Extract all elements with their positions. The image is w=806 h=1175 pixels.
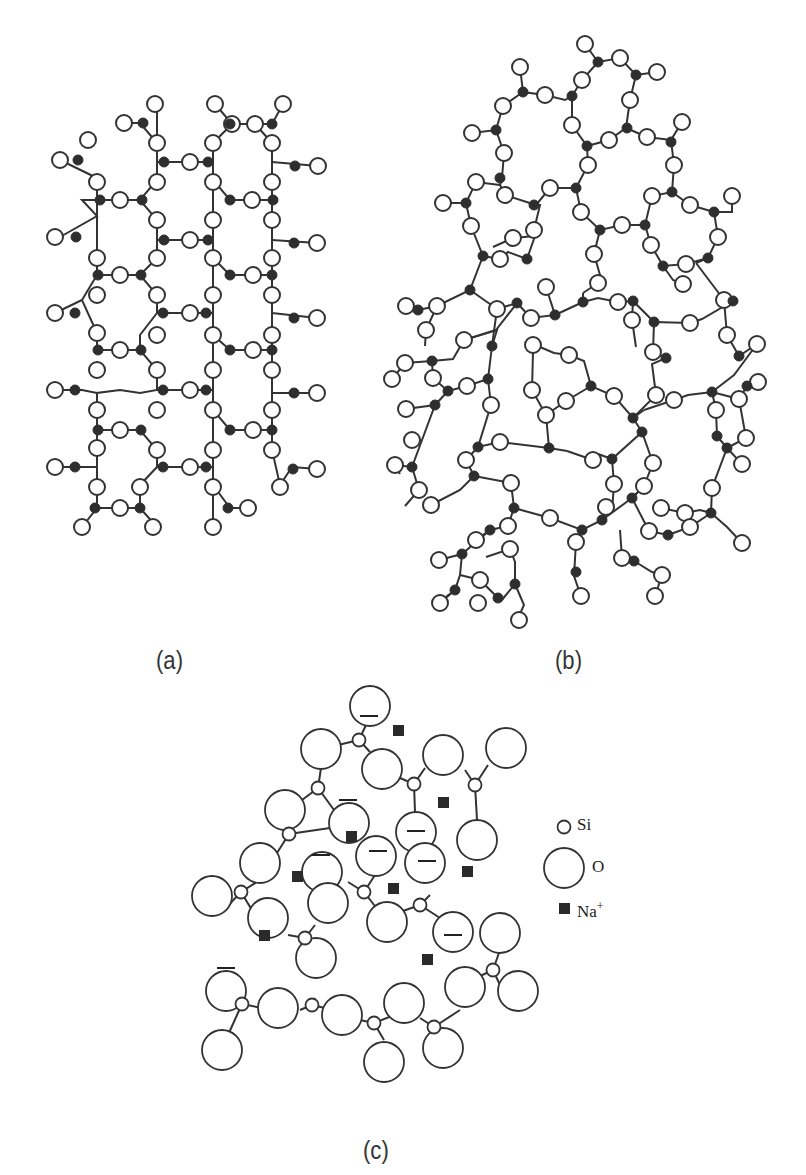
oxygen-atom <box>682 197 698 213</box>
silicon-atom <box>235 886 248 899</box>
oxygen-atom <box>682 315 698 331</box>
silicon-atom <box>95 195 105 205</box>
oxygen-atom <box>245 422 261 438</box>
sodium-ion <box>346 831 357 842</box>
silicon-atom <box>427 356 437 366</box>
silicon-atom <box>722 443 732 453</box>
oxygen-atom <box>666 392 682 408</box>
oxygen-atom <box>500 518 516 534</box>
oxygen-atom <box>423 497 439 513</box>
oxygen-atom <box>309 310 325 326</box>
oxygen-atom <box>606 388 622 404</box>
silicon-atom <box>622 123 632 133</box>
oxygen-atom <box>205 442 221 458</box>
oxygen-atom <box>265 790 305 830</box>
oxygen-atom <box>47 305 63 321</box>
silicon-atom <box>201 308 211 318</box>
oxygen-atom <box>423 1028 463 1068</box>
oxygen-atom <box>496 145 512 161</box>
oxygen-atom <box>112 342 128 358</box>
oxygen-atom <box>89 362 105 378</box>
oxygen-atom <box>47 229 63 245</box>
legend-si-label: Si <box>577 815 591 835</box>
oxygen-atom <box>435 195 451 211</box>
silicon-atom <box>487 964 500 977</box>
oxygen-atom <box>240 500 256 516</box>
oxygen-atom <box>47 459 63 475</box>
silicon-atom <box>267 270 277 280</box>
oxygen-atom <box>149 287 165 303</box>
oxygen-atom <box>470 595 486 611</box>
oxygen-atom <box>205 287 221 303</box>
oxygen-atom <box>480 913 520 953</box>
silicon-atom <box>658 261 668 271</box>
silicon-atom <box>529 200 539 210</box>
silicon-atom <box>465 285 475 295</box>
oxygen-atom <box>512 59 528 75</box>
silicon-atom <box>491 125 501 135</box>
oxygen-atom <box>182 382 198 398</box>
silicon-atom <box>414 899 427 912</box>
oxygen-atom <box>431 552 447 568</box>
silicon-atom <box>289 388 299 398</box>
legend-na-element: Na <box>577 902 597 921</box>
oxygen-atom <box>145 519 161 535</box>
legend-na-charge: + <box>597 899 604 913</box>
silicon-atom <box>478 251 488 261</box>
silicon-atom <box>93 425 103 435</box>
silicon-atom <box>368 1017 381 1030</box>
silicon-atom <box>407 462 417 472</box>
sodium-ion <box>388 883 399 894</box>
silicon-atom <box>201 462 211 472</box>
oxygen-atom <box>682 519 698 535</box>
oxygen-atom <box>387 457 403 473</box>
silicon-atom <box>267 119 277 129</box>
oxygen-atom <box>132 479 148 495</box>
oxygen-atom <box>362 749 402 789</box>
silicon-atom <box>90 503 100 513</box>
panel-c-label: (c) <box>363 1135 389 1166</box>
oxygen-atom <box>489 301 505 317</box>
silicon-atom <box>628 413 638 423</box>
oxygen-atom <box>205 479 221 495</box>
silicon-atom <box>138 118 148 128</box>
silicon-atom <box>522 254 532 264</box>
oxygen-atom <box>542 510 558 526</box>
oxygen-atom <box>405 843 445 883</box>
oxygen-atom <box>486 728 526 768</box>
oxygen-atom <box>649 64 665 80</box>
panel-b-amorphous-network <box>384 36 766 628</box>
silicon-atom <box>582 141 592 151</box>
oxygen-atom <box>275 96 291 112</box>
silicon-atom <box>443 386 453 396</box>
silicon-atom <box>487 341 497 351</box>
silicon-atom <box>550 310 560 320</box>
oxygen-atom <box>537 87 553 103</box>
oxygen-atom <box>459 378 475 394</box>
oxygen-atom <box>322 995 362 1035</box>
silicon-atom <box>225 119 235 129</box>
oxygen-atom <box>112 267 128 283</box>
oxygen-atom <box>498 971 538 1011</box>
oxygen-atom <box>309 385 325 401</box>
oxygen-atom <box>457 820 497 860</box>
oxygen-atom <box>310 158 326 174</box>
oxygen-atom <box>538 279 554 295</box>
oxygen-atom <box>492 251 508 267</box>
oxygen-atom <box>622 92 638 108</box>
oxygen-atom <box>526 222 542 238</box>
oxygen-atom <box>590 275 606 291</box>
oxygen-atom <box>704 480 720 496</box>
oxygen-atom <box>89 479 105 495</box>
silicon-atom <box>493 593 503 603</box>
silicon-atom <box>225 425 235 435</box>
oxygen-atom <box>497 187 513 203</box>
silicon-atom <box>637 427 647 437</box>
silicon-atom <box>413 305 423 315</box>
silicon-atom <box>607 454 617 464</box>
sodium-ion <box>393 725 404 736</box>
silicon-atom <box>544 443 554 453</box>
oxygen-atom <box>678 256 694 272</box>
oxygen-atom <box>585 452 601 468</box>
oxygen-atom <box>653 500 669 516</box>
